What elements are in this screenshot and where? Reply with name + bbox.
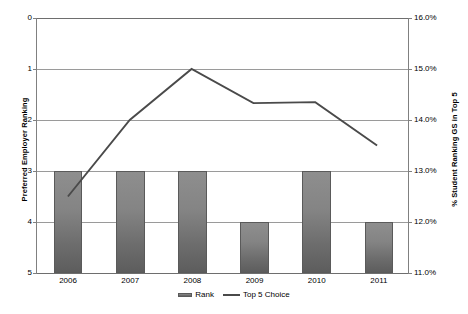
x-axis-label-2008: 2008	[161, 276, 223, 285]
right-axis-tick-mark	[408, 222, 412, 223]
x-axis-label-2011: 2011	[348, 276, 410, 285]
left-axis-tick-label: 0	[28, 14, 32, 22]
chart-container: Preferred Employer Ranking % Student Ran…	[0, 0, 468, 314]
gridline	[37, 273, 408, 274]
left-axis-tick-label: 4	[28, 218, 32, 226]
right-axis-tick-label: 16.0%	[414, 14, 437, 22]
line-path	[68, 69, 377, 197]
legend-label: Top 5 Choice	[243, 290, 290, 299]
right-axis-tick-mark	[408, 171, 412, 172]
x-axis-label-2009: 2009	[224, 276, 286, 285]
legend-item-top-5-choice[interactable]: Top 5 Choice	[223, 290, 290, 299]
right-axis-tick-mark	[408, 120, 412, 121]
left-axis-tick-label: 3	[28, 167, 32, 175]
right-axis-tick-label: 15.0%	[414, 65, 437, 73]
right-axis-tick-label: 12.0%	[414, 218, 437, 226]
x-axis-label-2010: 2010	[286, 276, 348, 285]
right-axis-tick-label: 14.0%	[414, 116, 437, 124]
left-axis-tick-label: 1	[28, 65, 32, 73]
legend-item-rank[interactable]: Rank	[178, 290, 214, 299]
left-axis-title: Preferred Employer Ranking	[20, 80, 29, 220]
line-swatch-icon	[223, 294, 240, 296]
right-axis-tick-label: 13.0%	[414, 167, 437, 175]
chart-legend: RankTop 5 Choice	[0, 290, 468, 299]
plot-area: 012345 16.0%15.0%14.0%13.0%12.0%11.0% 20…	[36, 18, 409, 273]
left-axis-tick-mark	[33, 273, 37, 274]
right-axis-tick-mark	[408, 69, 412, 70]
right-axis-tick-mark	[408, 273, 412, 274]
line-series-top5choice	[37, 18, 408, 273]
right-axis-tick-label: 11.0%	[414, 269, 436, 277]
legend-label: Rank	[195, 290, 214, 299]
x-axis-label-2006: 2006	[37, 276, 99, 285]
right-axis-tick-mark	[408, 18, 412, 19]
right-axis-title: % Student Ranking GS in Top 5	[450, 70, 459, 230]
bar-swatch-icon	[178, 293, 192, 297]
left-axis-tick-label: 2	[28, 116, 32, 124]
x-axis-label-2007: 2007	[99, 276, 161, 285]
left-axis-tick-label: 5	[28, 269, 32, 277]
